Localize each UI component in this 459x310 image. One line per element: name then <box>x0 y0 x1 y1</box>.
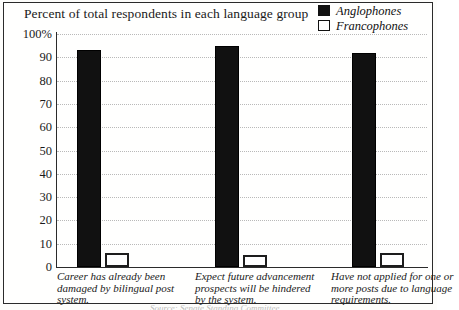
bar-anglophones <box>77 50 101 267</box>
y-axis-tick-label: 60 <box>4 121 52 133</box>
bar-francophones <box>243 255 267 267</box>
y-axis-tick-label: 70 <box>4 98 52 110</box>
y-axis-tick-labels: 100%9080706050403020100 <box>0 34 52 267</box>
legend-item-francophones: Francophones <box>318 18 433 33</box>
hollow-square-icon <box>318 20 330 31</box>
x-axis-category-label: Expect future advancement prospects will… <box>195 271 321 306</box>
y-axis-tick-label: 50 <box>4 145 52 157</box>
y-axis-tick-label: 90 <box>4 51 52 63</box>
chart-title: Percent of total respondents in each lan… <box>24 6 314 22</box>
bar-anglophones <box>352 53 376 267</box>
y-axis-tick-label: 40 <box>4 168 52 180</box>
y-axis-tick-label: 10 <box>4 238 52 250</box>
bar-anglophones <box>215 46 239 267</box>
y-axis-tick-label: 100% <box>4 28 52 40</box>
y-axis-tick-label: 20 <box>4 214 52 226</box>
y-axis-tick-label: 80 <box>4 75 52 87</box>
x-axis-category-label: Have not applied for one or more posts d… <box>331 271 459 306</box>
x-axis-line <box>56 267 428 268</box>
legend-item-anglophones: Anglophones <box>318 3 433 18</box>
legend-label-francophones: Francophones <box>336 19 408 33</box>
y-axis-tick-label: 30 <box>4 191 52 203</box>
y-axis-tick-label: 0 <box>4 261 52 273</box>
bar-francophones <box>105 253 129 267</box>
chart-legend: Anglophones Francophones <box>318 3 433 33</box>
filled-square-icon <box>318 5 330 16</box>
chart-bars <box>57 34 427 267</box>
bar-francophones <box>380 253 404 267</box>
x-axis-category-label: Career has already been damaged by bilin… <box>57 271 183 306</box>
source-note: Source: Senate Standing Committee <box>150 304 380 310</box>
x-axis-category-labels: Career has already been damaged by bilin… <box>57 271 432 307</box>
legend-label-anglophones: Anglophones <box>336 4 401 18</box>
